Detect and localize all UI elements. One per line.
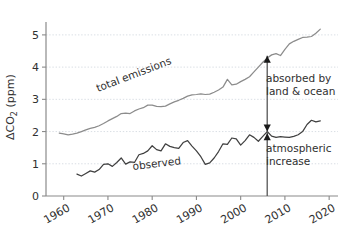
x-tick-label-1980: 1980	[130, 201, 161, 226]
co2-chart: 012345 1960197019801990200020102020 ΔCO2…	[0, 0, 347, 237]
y-axis-ticks: 012345	[32, 29, 46, 203]
absorbed-annotation-line1: absorbed by	[266, 72, 331, 84]
y-axis-title-delta: ΔCO	[4, 116, 17, 140]
x-tick-label-1990: 1990	[174, 201, 205, 226]
arrowhead-absorbed-bottom	[264, 125, 271, 132]
y-tick-label-2: 2	[32, 126, 39, 139]
series-label-total-emissions: total emissions	[94, 54, 172, 94]
y-axis-title: ΔCO2 (ppm)	[4, 74, 19, 140]
y-tick-label-4: 4	[32, 61, 39, 74]
y-tick-label-0: 0	[32, 190, 39, 203]
atmospheric-increase-line1: atmospheric	[266, 142, 332, 154]
y-tick-label-5: 5	[32, 29, 39, 42]
x-tick-label-1970: 1970	[86, 201, 117, 226]
series-label-observed: observed	[132, 154, 182, 172]
x-axis-ticks: 1960197019801990200020102020	[41, 196, 337, 227]
x-tick-label-2020: 2020	[307, 201, 338, 226]
y-tick-label-3: 3	[32, 93, 39, 106]
x-tick-label-2010: 2010	[263, 201, 294, 226]
x-tick-label-1960: 1960	[41, 201, 72, 226]
x-tick-label-2000: 2000	[218, 201, 249, 226]
y-tick-label-1: 1	[32, 158, 39, 171]
chart-canvas: 012345 1960197019801990200020102020 ΔCO2…	[0, 0, 347, 237]
absorbed-annotation-line2: land & ocean	[266, 85, 335, 97]
y-axis-title-unit: (ppm)	[4, 74, 17, 111]
atmospheric-increase-line2: increase	[266, 155, 310, 167]
